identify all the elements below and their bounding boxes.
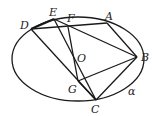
label-G: G [68, 84, 77, 95]
label-A: A [105, 11, 113, 22]
segment-GB [78, 57, 137, 81]
label-C: C [91, 104, 99, 115]
label-D: D [20, 20, 29, 31]
label-B: B [141, 52, 149, 63]
label-alpha: α [128, 86, 135, 97]
label-O: O [77, 53, 86, 64]
label-F: F [67, 13, 75, 24]
geometry-diagram: D E F A B O G C α [0, 0, 157, 116]
label-E: E [49, 7, 57, 18]
